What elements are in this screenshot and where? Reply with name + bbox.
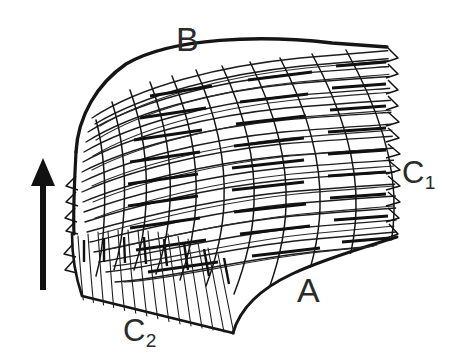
fiber-field-main (82, 50, 396, 326)
fiber-bundle-diagram (0, 0, 451, 364)
region-label-c1-base: C (402, 155, 424, 190)
region-label-c1-subscript: 1 (425, 172, 436, 193)
left-margin-tips (64, 176, 78, 273)
region-label-a: A (297, 273, 320, 307)
region-label-c2-subscript: 2 (146, 330, 157, 351)
region-label-c2-base: C (123, 313, 145, 348)
direction-arrow (31, 158, 55, 290)
region-label-c2: C2 (123, 315, 156, 346)
figure-root: B A C1 C2 (0, 0, 451, 364)
region-label-c1: C1 (402, 157, 435, 188)
region-label-b: B (176, 22, 199, 56)
